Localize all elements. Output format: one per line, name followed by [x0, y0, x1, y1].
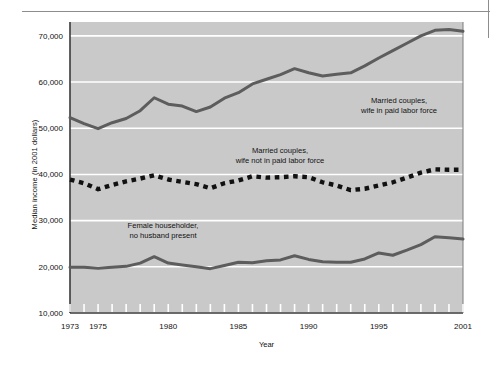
plot-background: [70, 22, 463, 313]
x-axis-title: Year: [70, 340, 463, 349]
x-tick-label-1973: 1973: [61, 322, 79, 331]
x-tick-label-1975: 1975: [89, 322, 107, 331]
y-tick-label-50000: 50,000: [39, 124, 64, 133]
x-tick-label-2001: 2001: [454, 322, 472, 331]
annotation-wife-in-labor-force: Married couples,wife in paid labor force: [360, 96, 437, 115]
y-tick-label-40000: 40,000: [39, 170, 64, 179]
x-axis-tick-labels: 1973197519801985199019952001: [61, 322, 472, 331]
y-tick-label-60000: 60,000: [39, 78, 64, 87]
y-axis-title: Median income (in 2001 dollars): [30, 100, 39, 250]
x-tick-label-1980: 1980: [159, 322, 177, 331]
chart-canvas: 10,00020,00030,00040,00050,00060,00070,0…: [0, 0, 496, 366]
y-tick-label-70000: 70,000: [39, 32, 64, 41]
annotation-female-householder: Female householder,no husband present: [128, 221, 199, 240]
y-tick-label-30000: 30,000: [39, 216, 64, 225]
line-chart-figure: 10,00020,00030,00040,00050,00060,00070,0…: [0, 0, 496, 366]
y-axis-tick-labels: 10,00020,00030,00040,00050,00060,00070,0…: [39, 32, 64, 318]
y-tick-label-10000: 10,000: [39, 309, 64, 318]
x-tick-label-1995: 1995: [370, 322, 388, 331]
x-tick-label-1990: 1990: [300, 322, 318, 331]
plot-area: [70, 22, 463, 313]
x-tick-label-1985: 1985: [230, 322, 248, 331]
y-tick-label-20000: 20,000: [39, 263, 64, 272]
